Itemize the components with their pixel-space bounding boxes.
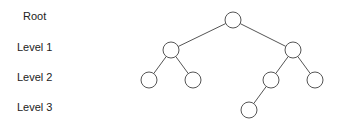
tree-edge [176,56,189,73]
tree-edge [178,23,226,46]
tree-edge [276,56,289,73]
tree-node-l3-a [241,102,257,118]
tree-node-l1-left [163,42,179,58]
tree-edge [298,56,311,73]
tree-node-l2-b [185,72,201,88]
tree-node-l2-a [141,72,157,88]
tree-edge [254,86,267,103]
tree-diagram [0,0,339,129]
tree-node-l2-d [307,72,323,88]
tree-node-root [225,12,241,28]
tree-node-l1-right [285,42,301,58]
tree-edge [154,56,167,73]
tree-edge [240,24,286,47]
tree-node-l2-c [263,72,279,88]
